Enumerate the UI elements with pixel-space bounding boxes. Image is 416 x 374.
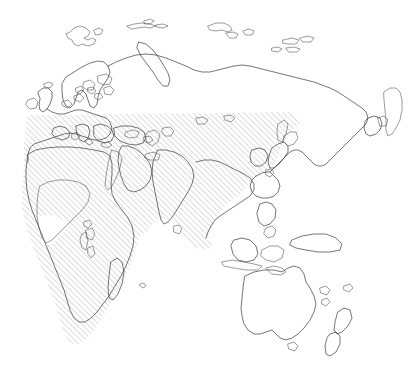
distribution-map-figure: [0, 0, 416, 374]
world-map-svg: [0, 0, 416, 374]
